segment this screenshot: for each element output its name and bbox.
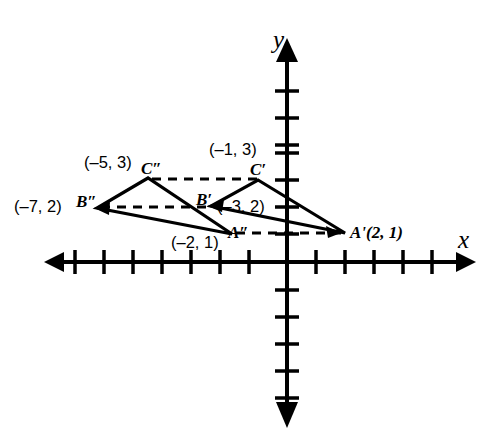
x-axis xyxy=(44,252,476,272)
c-prime-point-label: C′ xyxy=(250,160,266,179)
y-axis-label: y xyxy=(270,26,285,53)
x-axis-label: x xyxy=(457,226,469,253)
x-axis-right-arrow-icon xyxy=(456,252,476,272)
b-dprime-coordinate-label: (–7, 2) xyxy=(14,197,62,215)
b-prime-point-label: B′ xyxy=(195,190,212,209)
a-dprime-point-label: A″ xyxy=(227,223,249,242)
b-prime-coordinate-label: (–3, 2) xyxy=(217,197,265,215)
y-axis-down-arrow-icon xyxy=(276,402,298,428)
coordinate-plane-figure: y x (–5, 3) C″ (–7, 2) B″ (–1, 3) C′ B′ … xyxy=(0,0,493,448)
c-prime-coordinate-label: (–1, 3) xyxy=(209,140,257,158)
a-dprime-coordinate-label: (–2, 1) xyxy=(171,233,219,251)
c-dprime-point-label: C″ xyxy=(141,159,162,178)
b-dprime-point-label: B″ xyxy=(75,192,97,211)
x-axis-left-arrow-icon xyxy=(44,252,64,272)
figure-canvas: y x (–5, 3) C″ (–7, 2) B″ (–1, 3) C′ B′ … xyxy=(0,0,493,448)
c-dprime-coordinate-label: (–5, 3) xyxy=(84,153,132,171)
a-prime-label: A'(2, 1) xyxy=(349,223,403,242)
